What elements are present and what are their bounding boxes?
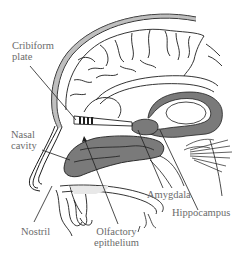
- ventricle: [166, 102, 206, 124]
- label-nasal-cavity: Nasal cavity: [11, 129, 37, 151]
- label-amygdala-line1: Amygdala: [147, 189, 191, 200]
- nasal-cavity-region: [64, 136, 164, 177]
- hippocampal-fibers: [184, 139, 232, 172]
- label-hippocampus: Hippocampus: [172, 207, 230, 218]
- label-olfactory-epithelium: Olfactory epithelium: [94, 226, 139, 248]
- amygdala-region: [132, 119, 158, 135]
- label-amygdala: Amygdala: [147, 189, 191, 200]
- tongue-nerve-ends: [138, 212, 156, 232]
- label-olfactory-line1: Olfactory: [94, 226, 139, 237]
- label-nostril-line1: Nostril: [21, 226, 50, 237]
- label-cribiform-plate: Cribiform plate: [12, 40, 54, 62]
- label-olfactory-line2: epithelium: [94, 237, 139, 248]
- label-nasal-line1: Nasal: [11, 129, 37, 140]
- label-nostril: Nostril: [21, 226, 50, 237]
- palate-bone: [70, 186, 108, 194]
- leader-nostril: [34, 186, 52, 222]
- label-cribiform-line2: plate: [12, 51, 54, 62]
- leader-nasal: [42, 150, 70, 160]
- olfactory-bulb: [74, 116, 132, 126]
- label-hippocampus-line1: Hippocampus: [172, 207, 230, 218]
- label-nasal-line2: cavity: [11, 140, 37, 151]
- anatomy-drawing: [0, 0, 246, 259]
- olfactory-anatomy-diagram: Cribiform plate Nasal cavity Nostril Olf…: [0, 0, 246, 259]
- arrowhead-olfactory: [82, 136, 87, 142]
- label-cribiform-line1: Cribiform: [12, 40, 54, 51]
